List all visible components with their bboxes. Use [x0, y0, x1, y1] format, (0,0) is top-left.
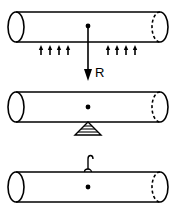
cylinder-back-end-hidden [152, 12, 160, 42]
equilibrium-diagram: R [0, 0, 175, 214]
up-arrow-icon [106, 45, 110, 55]
up-arrow-icon [39, 45, 43, 55]
up-arrow-icon [124, 45, 128, 55]
up-arrow-icon [48, 45, 52, 55]
up-arrow-icon [57, 45, 61, 55]
cylinder-front-end [8, 172, 24, 202]
resultant-label: R [95, 65, 104, 80]
cylinder-back-end [160, 172, 168, 202]
center-of-gravity-dot [86, 105, 91, 110]
center-of-gravity-dot [86, 185, 91, 190]
cylinder-back-end-hidden [152, 172, 160, 202]
cylinder-front-end [8, 92, 24, 122]
cylinder-hook-suspension [8, 156, 168, 203]
resultant-force-arrow [84, 26, 92, 81]
hook-icon [85, 156, 94, 173]
cylinder-distributed-load: R [8, 12, 168, 81]
support-triangle-icon [75, 122, 101, 135]
cylinder-back-end-hidden [152, 92, 160, 122]
up-arrow-icon [115, 45, 119, 55]
cylinder-front-end [8, 12, 24, 42]
cylinder-point-support [8, 92, 168, 135]
cylinder-back-end [160, 12, 168, 42]
down-arrow-icon [84, 69, 92, 81]
cylinder-back-end [160, 92, 168, 122]
up-arrow-icon [133, 45, 137, 55]
up-arrow-icon [66, 45, 70, 55]
